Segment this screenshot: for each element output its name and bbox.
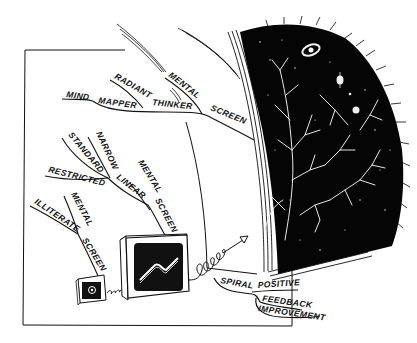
label-positive: POSITIVE — [257, 277, 300, 290]
mind-map-illustration: MIND MAPPER RADIANT THINKER MENTAL SCREE… — [0, 0, 417, 343]
label-mind: MIND — [66, 89, 90, 102]
wave-screen-icon — [120, 234, 189, 300]
small-screen-icon — [76, 275, 106, 305]
cosmic-screen — [240, 16, 410, 274]
label-screen-mid: SCREEN — [153, 196, 180, 234]
label-linear: LINEAR — [115, 172, 148, 201]
label-mapper: MAPPER — [98, 95, 138, 110]
label-screen-top: SCREEN — [209, 103, 248, 127]
label-thinker: THINKER — [152, 97, 194, 111]
big-spiral-arrow — [189, 236, 248, 280]
label-mental-top: MENTAL — [167, 70, 202, 101]
